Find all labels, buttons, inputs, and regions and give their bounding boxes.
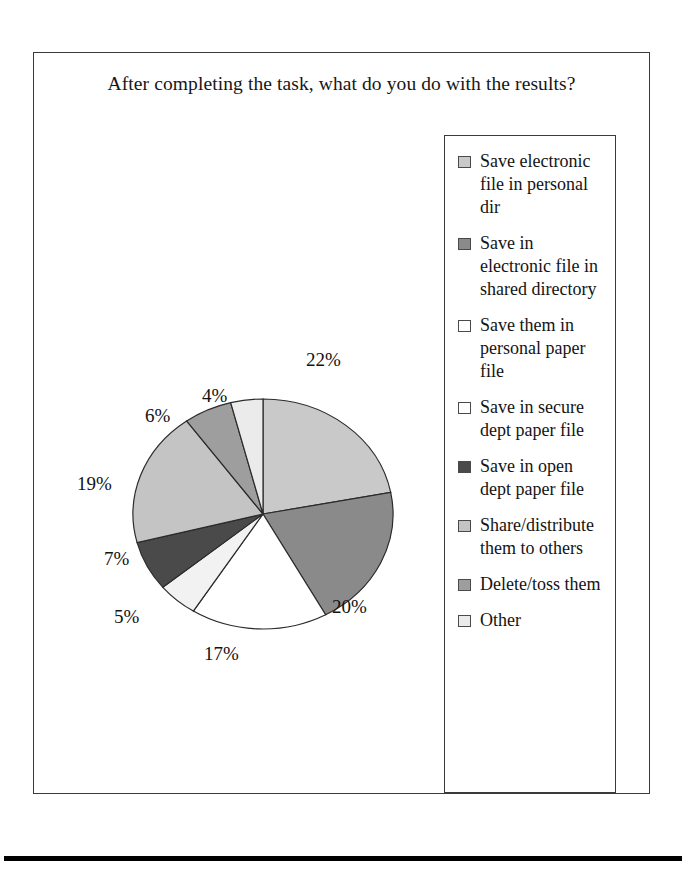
legend-item-label: Save in electronic file in shared direct… (480, 232, 608, 301)
legend-item-label: Save in secure dept paper file (480, 396, 608, 442)
legend-swatch-icon (458, 579, 471, 591)
legend-item-label: Other (480, 609, 521, 632)
legend-item-label: Delete/toss them (480, 573, 600, 596)
pie-slice-group (133, 399, 393, 629)
legend-item: Save electronic file in personal dir (458, 150, 609, 219)
pie-percent-label: 4% (202, 385, 227, 407)
legend-swatch-icon (458, 156, 471, 168)
legend-item-label: Save them in personal paper file (480, 314, 608, 383)
legend-swatch-icon (458, 615, 471, 627)
legend-item-label: Share/distribute them to others (480, 514, 608, 560)
pie-percent-label: 20% (332, 596, 367, 618)
legend-list: Save electronic file in personal dirSave… (458, 150, 609, 645)
chart-title: After completing the task, what do you d… (34, 73, 649, 95)
pie-percent-label: 22% (306, 349, 341, 371)
legend-swatch-icon (458, 402, 471, 414)
legend-item: Save in open dept paper file (458, 455, 609, 501)
legend-swatch-icon (458, 520, 471, 532)
legend-item: Share/distribute them to others (458, 514, 609, 560)
legend-item: Other (458, 609, 609, 632)
legend-swatch-icon (458, 461, 471, 473)
figure-frame: After completing the task, what do you d… (33, 52, 650, 794)
pie-percent-label: 19% (77, 473, 112, 495)
legend-item: Save in secure dept paper file (458, 396, 609, 442)
legend-item: Delete/toss them (458, 573, 609, 596)
pie-percent-label: 17% (204, 643, 239, 665)
bottom-horizontal-rule (4, 856, 682, 861)
pie-percent-label: 5% (114, 606, 139, 628)
pie-chart-plot-area: 22%20%17%5%7%19%6%4% (34, 113, 444, 793)
pie-percent-label: 6% (145, 405, 170, 427)
legend-swatch-icon (458, 238, 471, 250)
legend-swatch-icon (458, 320, 471, 332)
legend-item-label: Save in open dept paper file (480, 455, 608, 501)
pie-percent-label: 7% (104, 548, 129, 570)
legend-item-label: Save electronic file in personal dir (480, 150, 608, 219)
legend-box: Save electronic file in personal dirSave… (444, 135, 616, 793)
legend-item: Save them in personal paper file (458, 314, 609, 383)
legend-item: Save in electronic file in shared direct… (458, 232, 609, 301)
